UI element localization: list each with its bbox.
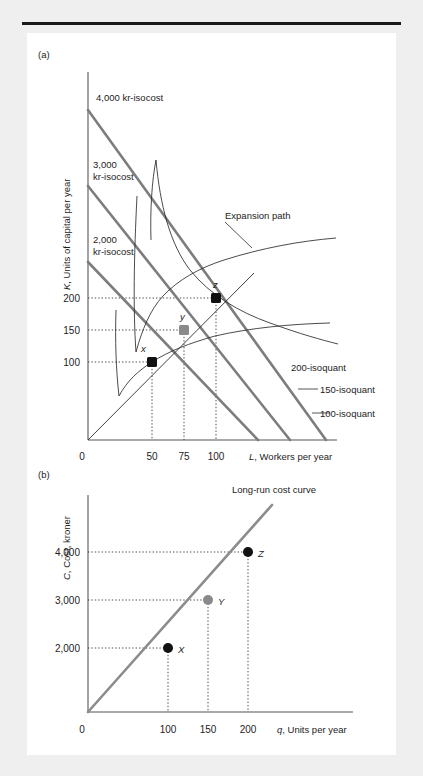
panel-a-label: (a) <box>38 49 50 60</box>
point-y-label: y <box>179 311 186 322</box>
isoquant-100-upper <box>116 310 119 396</box>
isocost-3000-label-line2: kr-isocost <box>93 171 134 182</box>
isocost-4000-line <box>88 110 326 440</box>
panel-a-xtick-100: 100 <box>208 451 225 462</box>
panel-a-xtick-75: 75 <box>178 451 190 462</box>
isocost-2000-label-line1: 2,000 <box>93 234 117 245</box>
panel-a-xtick-50: 50 <box>146 451 158 462</box>
panel-a-chart: (a) K, Units of capital per year <box>0 0 423 480</box>
point-z-label: z <box>212 279 218 290</box>
isoquant-100-label: 100-isoquant <box>320 408 375 419</box>
isoquant-150-upper <box>134 196 137 352</box>
isoquant-200-label: 200-isoquant <box>291 362 346 373</box>
figure-root: (a) K, Units of capital per year <box>0 0 423 776</box>
expansion-path-leader <box>225 222 252 248</box>
point-y: y <box>179 311 189 335</box>
panel-a-origin: 0 <box>79 451 85 462</box>
isocost-3000-label-line1: 3,000 <box>93 159 117 170</box>
panel-a-y-axis-title: K, Units of capital per year <box>61 179 72 290</box>
point-x: x <box>140 343 157 367</box>
panel-a-ytick-100: 100 <box>63 357 80 368</box>
isocost-4000-label: 4,000 kr-isocost <box>96 92 163 103</box>
panel-a-x-axis-title: L, Workers per year <box>249 451 332 462</box>
expansion-path-label: Expansion path <box>225 210 291 221</box>
isoquant-150-label: 150-isoquant <box>320 384 375 395</box>
isocost-3000-line <box>88 186 290 440</box>
panel-a-ytick-200: 200 <box>63 293 80 304</box>
panel-a-ytick-150: 150 <box>63 325 80 336</box>
point-x-label: x <box>140 343 147 354</box>
isocost-2000-label-line2: kr-isocost <box>93 246 134 257</box>
